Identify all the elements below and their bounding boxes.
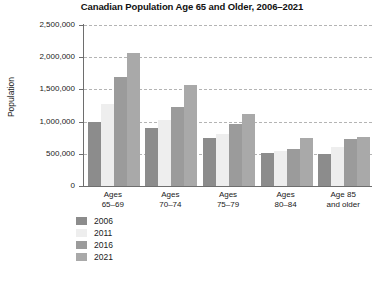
- x-axis-category-label: Ages65–69: [80, 190, 146, 209]
- bar: [274, 151, 287, 186]
- bar: [203, 138, 216, 186]
- bar: [300, 138, 313, 186]
- x-axis-label-line: Ages: [195, 190, 261, 200]
- chart-legend: 2006201120162021: [76, 215, 113, 263]
- bar: [331, 147, 344, 186]
- x-axis-label-line: 75–79: [195, 200, 261, 210]
- bar: [145, 128, 158, 186]
- legend-swatch: [76, 217, 87, 225]
- x-axis-label-line: Age 85: [310, 190, 376, 200]
- bar: [357, 137, 370, 186]
- bar-group: [261, 25, 313, 186]
- x-axis-label-line: Ages: [137, 190, 203, 200]
- bar: [101, 104, 114, 186]
- legend-swatch: [76, 241, 87, 249]
- y-axis-tick-label: 0: [13, 181, 75, 190]
- y-axis-tick-label: 1,000,000: [13, 117, 75, 126]
- bar: [261, 153, 274, 186]
- y-axis-tick-label: 500,000: [13, 149, 75, 158]
- legend-swatch: [76, 253, 87, 261]
- y-axis-tick-label: 1,500,000: [13, 84, 75, 93]
- x-axis-category-label: Ages70–74: [137, 190, 203, 209]
- x-axis-line: [83, 186, 372, 187]
- legend-label: 2011: [94, 228, 112, 238]
- x-axis-category-label: Ages75–79: [195, 190, 261, 209]
- x-axis-label-line: 65–69: [80, 200, 146, 210]
- bar: [88, 122, 101, 186]
- bar-group: [88, 25, 140, 186]
- x-axis-label-line: 80–84: [253, 200, 319, 210]
- bar: [216, 134, 229, 186]
- x-axis-label-line: and older: [310, 200, 376, 210]
- legend-item[interactable]: 2016: [76, 239, 113, 251]
- bar: [287, 149, 300, 186]
- bar-group: [145, 25, 197, 186]
- plot-area: [84, 25, 372, 186]
- bar: [318, 154, 331, 186]
- x-axis-label-line: Ages: [80, 190, 146, 200]
- legend-label: 2006: [94, 216, 113, 226]
- y-axis-title: Population: [6, 62, 16, 132]
- bar: [114, 77, 127, 186]
- bar-group: [203, 25, 255, 186]
- legend-item[interactable]: 2006: [76, 215, 113, 227]
- x-axis-category-label: Ages80–84: [253, 190, 319, 209]
- legend-item[interactable]: 2021: [76, 251, 113, 263]
- legend-label: 2016: [94, 240, 113, 250]
- legend-swatch: [76, 229, 87, 237]
- bar: [184, 85, 197, 186]
- bar: [344, 139, 357, 186]
- bar: [171, 107, 184, 186]
- chart-title: Canadian Population Age 65 and Older, 20…: [0, 1, 384, 12]
- bar: [158, 120, 171, 186]
- bar: [127, 53, 140, 186]
- bar: [229, 124, 242, 186]
- population-bar-chart: Canadian Population Age 65 and Older, 20…: [0, 0, 384, 287]
- y-axis-tick-label: 2,000,000: [13, 52, 75, 61]
- legend-item[interactable]: 2011: [76, 227, 113, 239]
- y-axis-tick: [79, 186, 84, 187]
- x-axis-label-line: 70–74: [137, 200, 203, 210]
- x-axis-category-label: Age 85and older: [310, 190, 376, 209]
- bar: [242, 114, 255, 186]
- y-axis-tick-label: 2,500,000: [13, 20, 75, 29]
- x-axis-label-line: Ages: [253, 190, 319, 200]
- legend-label: 2021: [94, 252, 113, 262]
- bar-group: [318, 25, 370, 186]
